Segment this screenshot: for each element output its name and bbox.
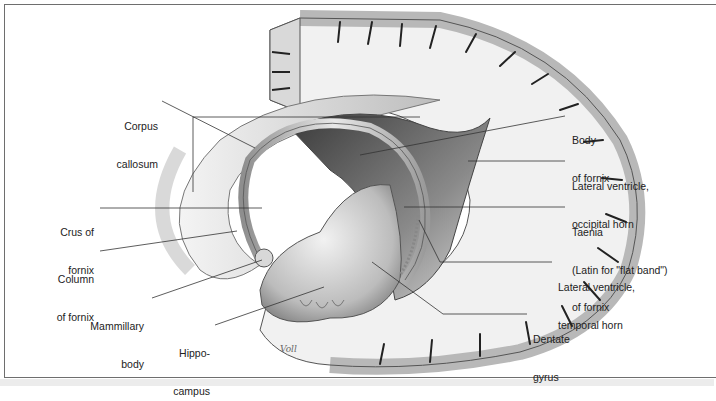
label-hippocampus-line2: campus [160, 385, 210, 398]
label-mammillary-body-line1: Mammillary [80, 320, 144, 333]
label-column-of-fornix-line1: Column [40, 273, 94, 286]
label-mammillary-body: Mammillary body [80, 295, 144, 383]
label-corpus-callosum-line2: callosum [112, 158, 158, 171]
label-body-of-fornix-line1: Body [572, 134, 609, 147]
mammillary-body [255, 249, 273, 267]
label-lateral-ventricle-occipital-line1: Lateral ventricle, [572, 180, 649, 193]
label-dentate-gyrus-line2: gyrus [533, 371, 570, 384]
label-corpus-callosum-line1: Corpus [112, 120, 158, 133]
label-hippocampus-line1: Hippo- [160, 347, 210, 360]
label-corpus-callosum: Corpus callosum [112, 95, 158, 183]
label-crus-of-fornix-line1: Crus of [40, 226, 94, 239]
label-dentate-gyrus-line1: Dentate [533, 333, 570, 346]
label-taenia-line1: Taenia [572, 226, 668, 239]
label-lateral-ventricle-temporal-line1: Lateral ventricle, [558, 281, 635, 294]
label-dentate-gyrus: Dentate gyrus [533, 308, 570, 396]
artist-signature: Voll [280, 344, 297, 354]
label-hippocampus: Hippo- campus [160, 322, 210, 401]
label-mammillary-body-line2: body [80, 358, 144, 371]
hippocampus [260, 185, 401, 322]
